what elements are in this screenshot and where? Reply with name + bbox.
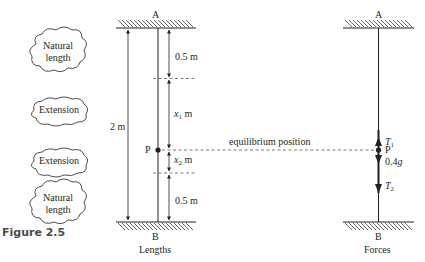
weight-var: g: [398, 156, 403, 167]
total-length-label: 2 m: [110, 121, 125, 133]
lengths-point-label: P: [145, 144, 151, 156]
x1-label: x1 m: [174, 108, 192, 123]
forces-floor: [343, 222, 414, 230]
forces-label-a: A: [375, 9, 382, 21]
forces-caption: Forces: [364, 244, 391, 256]
cloud-label-natural-length-top: Natural length: [38, 40, 78, 64]
top-segment-label: 0.5 m: [175, 51, 198, 63]
t2-sub: 2: [391, 185, 395, 193]
particle-p-lengths: [155, 147, 160, 152]
t2-arrow-icon: [375, 184, 382, 193]
lengths-label-a: A: [152, 9, 159, 21]
cloud-line-2: length: [38, 204, 78, 216]
bottom-segment-label: 0.5 m: [175, 195, 198, 207]
cloud-label-extension-1: Extension: [32, 104, 86, 116]
cloud-line-1: Extension: [32, 104, 86, 116]
particle-p-forces: [376, 147, 381, 152]
cloud-line-2: length: [38, 52, 78, 64]
cloud-line-1: Natural: [38, 40, 78, 52]
cloud-line-1: Natural: [38, 192, 78, 204]
x1-unit: m: [182, 108, 192, 119]
cloud-label-natural-length-bottom: Natural length: [38, 192, 78, 216]
t2-label: T2: [385, 180, 394, 195]
weight-arrow-icon: [375, 155, 382, 164]
weight-label: 0.4g: [385, 156, 403, 168]
t1-arrow-icon: [375, 137, 382, 146]
weight-num: 0.4: [385, 156, 398, 167]
lengths-caption: Lengths: [139, 244, 171, 256]
forces-point-label: P: [385, 144, 391, 156]
x2-label: x2 m: [174, 154, 192, 169]
t1-sub: 1: [391, 141, 395, 149]
cloud-line-1: Extension: [32, 155, 86, 167]
forces-label-b: B: [375, 231, 382, 243]
figure-caption: Figure 2.5: [2, 226, 65, 239]
x2-unit: m: [182, 154, 192, 165]
cloud-label-extension-2: Extension: [32, 155, 86, 167]
lengths-floor: [116, 222, 196, 230]
equilibrium-label: equilibrium position: [229, 136, 310, 148]
figure-stage: Natural length Extension Extension Natur…: [0, 0, 425, 262]
forces-ceiling: [343, 20, 414, 28]
lengths-label-b: B: [152, 231, 159, 243]
lengths-ceiling: [116, 20, 196, 28]
